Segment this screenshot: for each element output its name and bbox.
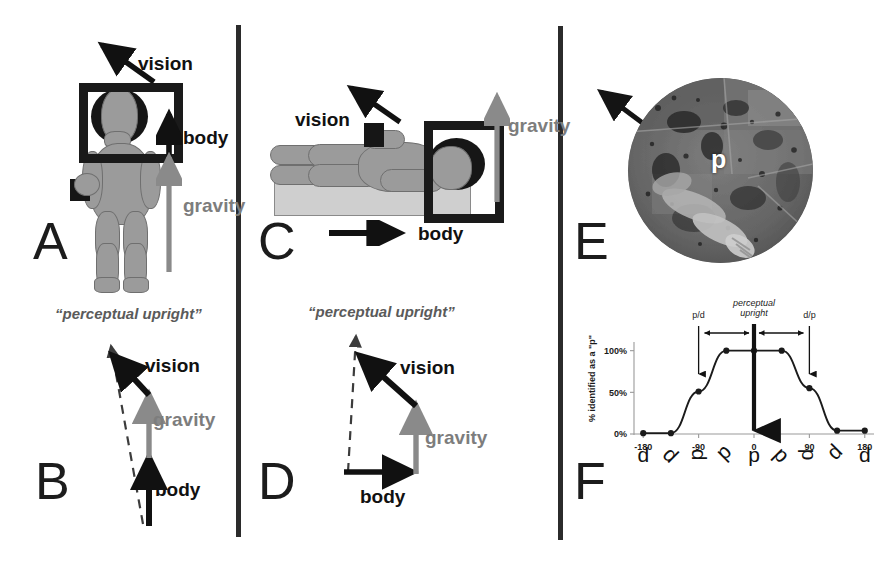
chart-data-point	[640, 430, 646, 436]
panel-c-gravity-arrow	[484, 88, 510, 206]
chart-data-point	[696, 388, 702, 394]
panel-letter-b: B	[35, 455, 70, 507]
chart-annotation-dp: d/p	[803, 310, 816, 320]
panel-d-perceptual-upright-label: “perceptual upright”	[308, 304, 455, 319]
panel-f-y-axis-label: % identified as a "p"	[588, 335, 597, 422]
panel-b-perceptual-upright-label: “perceptual upright”	[55, 306, 202, 321]
chart-glyph-4: p	[743, 444, 765, 465]
chart-data-point	[723, 348, 729, 354]
chart-annotation-perceptual-upright: perceptual	[732, 298, 776, 308]
panel-a-hand	[74, 173, 100, 196]
panel-c-gravity-label: gravity	[508, 116, 570, 135]
figure-canvas: vision	[0, 0, 891, 561]
chart-glyph-5: p	[766, 439, 796, 469]
panel-c-body-label: body	[418, 224, 463, 243]
chart-glyph-6: p	[799, 444, 820, 466]
panel-a: vision	[0, 0, 236, 290]
chart-y-tick-label: 0%	[614, 429, 627, 439]
panel-a-gravity-label: gravity	[183, 196, 245, 215]
panel-letter-e: E	[574, 215, 609, 267]
chart-glyph-0: d	[632, 444, 654, 465]
panel-e-goggle-view-photo: d	[628, 78, 813, 263]
panel-letter-d: D	[258, 455, 296, 507]
panel-d-vision-label: vision	[400, 358, 455, 377]
panel-c-headrest-block	[364, 123, 384, 147]
chart-annotation-perceptual-upright: upright	[740, 308, 768, 318]
panel-d-gravity-label: gravity	[425, 428, 487, 447]
chart-glyph-8: d	[854, 444, 876, 465]
chart-data-point	[862, 428, 868, 434]
chart-glyph-1: d	[656, 439, 686, 469]
panel-a-vision-label: vision	[138, 54, 193, 73]
panel-letter-c: C	[258, 215, 296, 267]
panel-d: “perceptual upright” vision	[240, 290, 558, 561]
chart-y-tick-label: 100%	[604, 346, 627, 356]
panel-c: vision	[240, 0, 558, 290]
panel-b-gravity-label: gravity	[153, 410, 215, 429]
panel-e: d E	[562, 0, 891, 290]
panel-c-mannequin	[260, 120, 480, 225]
panel-b: “perceptual upright” vision	[0, 290, 236, 561]
panel-a-gravity-arrow	[156, 148, 182, 276]
chart-data-point	[668, 430, 674, 436]
panel-e-stimulus-letter: d	[711, 148, 726, 177]
panel-b-vision-label: vision	[145, 356, 200, 375]
chart-data-point	[779, 348, 785, 354]
panel-b-body-label: body	[155, 480, 200, 499]
panel-letter-f: F	[574, 455, 606, 507]
panel-a-body-label: body	[183, 128, 228, 147]
chart-glyph-7: p	[822, 439, 852, 469]
chart-annotation-pd: p/d	[692, 310, 705, 320]
chart-y-tick-label: 50%	[609, 388, 627, 398]
chart-data-point	[806, 385, 812, 391]
chart-glyph-2: d	[688, 444, 709, 466]
chart-data-point	[834, 428, 840, 434]
chart-glyph-3: d	[711, 439, 741, 469]
panel-f: 0%50%100%-180-90090180p/dd/pperceptualup…	[562, 290, 891, 561]
panel-f-glyph-row: ddddppppd	[582, 440, 882, 474]
panel-c-body-arrow	[324, 220, 410, 246]
panel-letter-a: A	[33, 215, 68, 267]
panel-d-body-label: body	[360, 487, 405, 506]
